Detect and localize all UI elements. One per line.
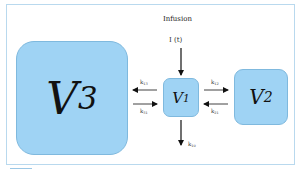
label-k21: k21	[211, 108, 219, 115]
label-k10: k10	[188, 141, 196, 148]
label-k31: k31	[140, 108, 148, 115]
label-k13: k13	[140, 79, 148, 86]
arrows-layer	[0, 0, 300, 171]
label-k12: k12	[211, 79, 219, 86]
